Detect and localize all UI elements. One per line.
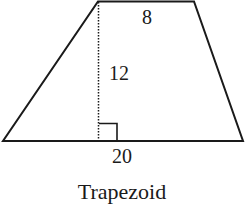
trapezoid-diagram: 8 12 20 Trapezoid: [0, 0, 248, 204]
trapezoid-figure: 8 12 20 Trapezoid: [0, 0, 248, 204]
bottom-base-label: 20: [112, 145, 132, 167]
top-base-label: 8: [142, 6, 152, 28]
figure-caption: Trapezoid: [78, 179, 166, 204]
height-label: 12: [109, 62, 129, 84]
right-angle-marker: [99, 124, 117, 142]
